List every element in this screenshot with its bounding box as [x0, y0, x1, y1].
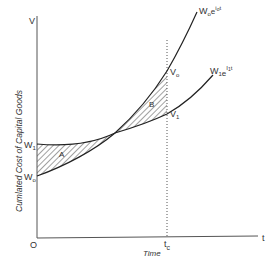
origin-label: O: [30, 240, 37, 250]
y-axis-label: V: [29, 16, 35, 26]
w1-label: W1: [24, 140, 37, 151]
v0-label: Vo: [170, 67, 180, 78]
w0-label: Wo: [24, 172, 37, 183]
cost-diagram: V t O Cumlated Cost of Capital Goods Tim…: [0, 0, 280, 270]
x-axis-label: t: [262, 233, 265, 243]
v1-label: V1: [170, 109, 180, 120]
curve-w1-label: W1eI1t: [210, 65, 233, 78]
y-axis-title: Cumlated Cost of Capital Goods: [14, 89, 24, 212]
region-b-label: B: [149, 100, 154, 109]
region-a-label: A: [59, 150, 65, 159]
curve-w0-label: Woeiot: [199, 5, 221, 17]
region-b-hatch-fill: [115, 71, 167, 133]
x-axis-title: Time: [143, 249, 161, 258]
curve-w1: [37, 75, 213, 145]
tc-label: tc: [164, 239, 171, 251]
region-a-hatch-fill: [37, 133, 115, 176]
x-axis: [37, 236, 258, 238]
